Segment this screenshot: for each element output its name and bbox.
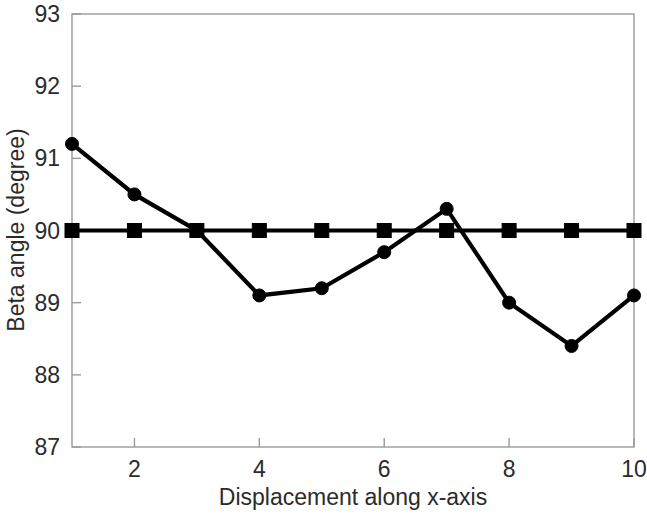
y-tick-label-92: 92 (34, 73, 60, 99)
data-point-reference-beta-angle-1 (65, 224, 79, 238)
data-point-reference-beta-angle-3 (190, 224, 204, 238)
data-point-reference-beta-angle-2 (127, 224, 141, 238)
data-point-measured-beta-angle-4 (253, 289, 266, 302)
x-axis-tick-labels: 246810 (128, 456, 647, 482)
data-point-measured-beta-angle-7 (440, 202, 453, 215)
x-tick-label-10: 10 (621, 456, 647, 482)
x-axis-title: Displacement along x-axis (219, 484, 487, 510)
y-axis-title: Beta angle (degree) (3, 128, 29, 331)
x-tick-label-4: 4 (253, 456, 266, 482)
series-line-measured-beta-angle (72, 144, 634, 346)
data-point-measured-beta-angle-8 (503, 296, 516, 309)
x-tick-label-8: 8 (503, 456, 516, 482)
y-tick-label-89: 89 (34, 290, 60, 316)
data-series-group (65, 137, 641, 352)
y-tick-label-90: 90 (34, 218, 60, 244)
data-point-reference-beta-angle-9 (565, 224, 579, 238)
series-reference-beta-angle (65, 224, 641, 238)
data-point-measured-beta-angle-6 (378, 246, 391, 259)
data-point-reference-beta-angle-5 (315, 224, 329, 238)
data-point-measured-beta-angle-2 (128, 188, 141, 201)
data-point-reference-beta-angle-10 (627, 224, 641, 238)
y-axis-tick-labels: 87888990919293 (34, 1, 60, 460)
data-point-measured-beta-angle-1 (66, 137, 79, 150)
x-axis-ticks (134, 438, 634, 447)
series-measured-beta-angle (66, 137, 641, 352)
data-point-reference-beta-angle-4 (252, 224, 266, 238)
chart-plot-area: 87888990919293 246810 Displacement along… (0, 0, 647, 515)
y-tick-label-88: 88 (34, 362, 60, 388)
chart-figure: 87888990919293 246810 Displacement along… (0, 0, 647, 515)
data-point-reference-beta-angle-6 (377, 224, 391, 238)
data-point-reference-beta-angle-7 (440, 224, 454, 238)
data-point-measured-beta-angle-5 (315, 282, 328, 295)
x-tick-label-2: 2 (128, 456, 141, 482)
y-tick-label-91: 91 (34, 145, 60, 171)
y-tick-label-87: 87 (34, 434, 60, 460)
data-point-reference-beta-angle-8 (502, 224, 516, 238)
y-tick-label-93: 93 (34, 1, 60, 27)
data-point-measured-beta-angle-10 (628, 289, 641, 302)
x-tick-label-6: 6 (378, 456, 391, 482)
data-point-measured-beta-angle-9 (565, 339, 578, 352)
